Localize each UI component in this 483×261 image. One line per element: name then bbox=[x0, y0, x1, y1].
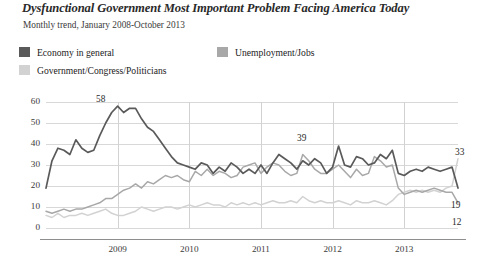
plot-area bbox=[46, 102, 458, 228]
legend-swatch-unemployment bbox=[217, 47, 228, 57]
x-axis-tick-2010: 2010 bbox=[161, 244, 217, 254]
annotation-end-government: 33 bbox=[455, 147, 464, 157]
annotation-peak-economy: 58 bbox=[96, 94, 105, 104]
legend-label-economy: Economy in general bbox=[37, 47, 114, 58]
legend-label-government: Government/Congress/Politicians bbox=[37, 65, 167, 76]
chart-container: Dysfunctional Government Most Important … bbox=[0, 0, 483, 261]
series-line-0 bbox=[46, 106, 458, 188]
x-axis-tick-2013: 2013 bbox=[376, 244, 432, 254]
legend-item-unemployment: Unemployment/Jobs bbox=[217, 42, 314, 60]
annotation-end-unemployment: 12 bbox=[452, 217, 461, 227]
y-axis-labels: 0102030405060 bbox=[0, 0, 40, 261]
x-axis-tick-2011: 2011 bbox=[233, 244, 289, 254]
x-axis-tick-2012: 2012 bbox=[305, 244, 361, 254]
x-axis-tick-2009: 2009 bbox=[90, 244, 146, 254]
y-axis-tick-40: 40 bbox=[4, 138, 40, 148]
y-axis-tick-10: 10 bbox=[4, 201, 40, 211]
series-lines bbox=[46, 102, 458, 228]
y-axis-tick-0: 0 bbox=[4, 222, 40, 232]
y-axis-tick-50: 50 bbox=[4, 117, 40, 127]
y-axis-tick-30: 30 bbox=[4, 159, 40, 169]
annotation-mid-economy: 39 bbox=[297, 133, 306, 143]
y-axis-tick-20: 20 bbox=[4, 180, 40, 190]
legend-item-government: Government/Congress/Politicians bbox=[19, 60, 167, 78]
annotation-end-economy: 19 bbox=[451, 200, 460, 210]
legend-label-unemployment: Unemployment/Jobs bbox=[235, 47, 314, 58]
gridline-y bbox=[46, 228, 458, 229]
chart-title: Dysfunctional Government Most Important … bbox=[22, 1, 409, 16]
x-axis-line bbox=[40, 239, 466, 240]
y-axis-tick-60: 60 bbox=[4, 96, 40, 106]
chart-subtitle: Monthly trend, January 2008-October 2013 bbox=[23, 20, 185, 30]
